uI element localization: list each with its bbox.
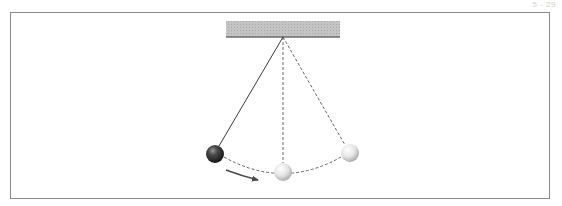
string-right-dashed [283, 37, 345, 145]
string-left-solid [219, 37, 283, 146]
pendulum-diagram [0, 0, 562, 206]
left-bob-dark [206, 145, 224, 163]
motion-arrow-icon [226, 170, 258, 180]
middle-bob-light [274, 163, 292, 181]
ceiling-support [226, 21, 340, 37]
right-bob-light [341, 144, 359, 162]
